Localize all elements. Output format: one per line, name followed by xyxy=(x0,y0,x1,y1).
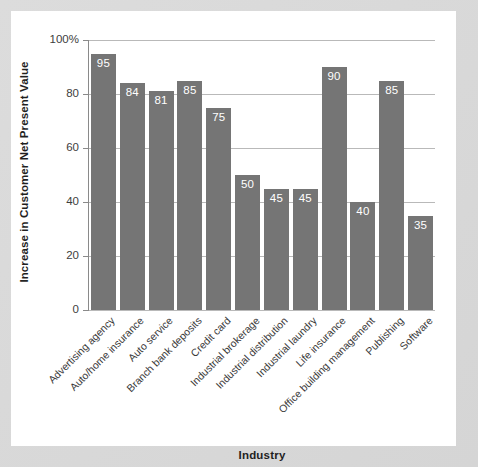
y-axis-tick xyxy=(83,94,89,95)
x-axis-tick-labels: Advertising agencyAuto/home insuranceAut… xyxy=(11,11,478,467)
chart-screenshot: 100%806040200 958481857550454590408535 A… xyxy=(0,0,478,467)
x-axis-title: Industry xyxy=(89,449,435,461)
y-axis-tick xyxy=(83,148,89,149)
y-axis-tick xyxy=(83,310,89,311)
chart-panel: 100%806040200 958481857550454590408535 A… xyxy=(11,11,456,446)
y-axis-tick xyxy=(83,256,89,257)
y-axis-tick xyxy=(83,40,89,41)
y-axis-tick xyxy=(83,202,89,203)
y-axis-title: Increase in Customer Net Present Value xyxy=(18,22,30,322)
